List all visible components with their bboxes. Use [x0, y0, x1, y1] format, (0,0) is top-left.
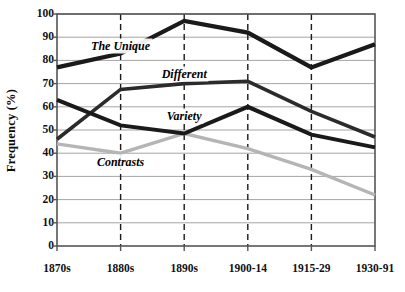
- x-tick-label: 1890s: [170, 262, 197, 274]
- series-line-different: [57, 81, 375, 139]
- x-tick-label: 1930-91: [356, 262, 394, 274]
- series-label-variety: Variety: [165, 109, 204, 124]
- x-tick-label: 1900-14: [229, 262, 267, 274]
- series-label-the-unique: The Unique: [89, 39, 152, 54]
- x-tick-label: 1880s: [107, 262, 134, 274]
- line-chart: Frequency (%) 1009080706050403020100 187…: [0, 0, 405, 292]
- plot-area: [0, 0, 405, 292]
- series-label-different: Different: [160, 67, 209, 82]
- series-label-contrasts: Contrasts: [95, 155, 146, 170]
- x-tick-label: 1915-29: [292, 262, 330, 274]
- x-tick-label: 1870s: [43, 262, 70, 274]
